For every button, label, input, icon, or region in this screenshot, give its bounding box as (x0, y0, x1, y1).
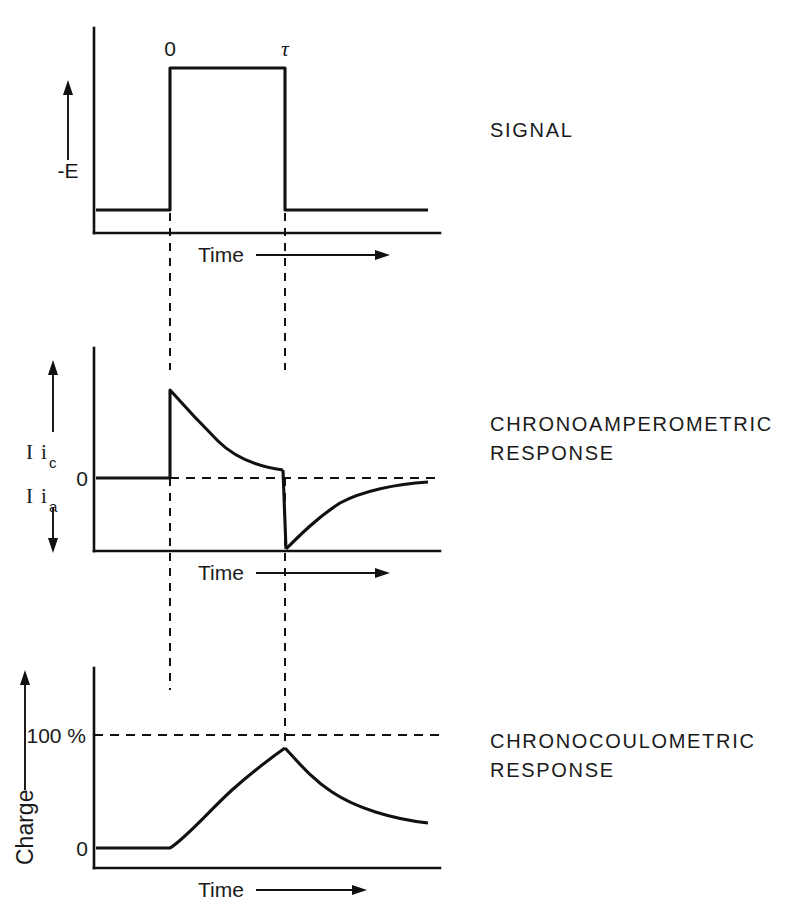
arrow-up-icon (48, 360, 58, 375)
signal-time-arrow (256, 250, 390, 260)
chronocoulometric-panel-caption-line1: CHRONOCOULOMETRIC (490, 730, 756, 752)
cathodic-label-prefix: I (26, 440, 33, 464)
arrow-right-icon (352, 885, 367, 895)
arrow-right-icon (375, 250, 390, 260)
time-alignment-guides (170, 213, 285, 748)
chronocoulometric-time-arrow (256, 885, 367, 895)
panel-chronocoulometric: Charge 100 % 0 Time CHRONOCOULOMETRIC RE… (12, 668, 756, 901)
chronocoulometric-x-axis-label: Time (198, 878, 244, 901)
signal-panel-caption: SIGNAL (490, 119, 574, 141)
chronoamperometric-panel-caption-line1: CHRONOAMPEROMETRIC (490, 413, 773, 435)
panel-signal: 0 τ -E Time SIGNAL (58, 28, 574, 266)
anodic-current-trace (286, 482, 428, 549)
signal-tick-label-tau: τ (281, 36, 290, 61)
signal-x-axis-label: Time (198, 243, 244, 266)
cathodic-label-symbol: i (41, 440, 47, 464)
arrow-up-icon (63, 80, 73, 95)
cathodic-label-subscript: c (49, 454, 57, 471)
arrow-up-icon (20, 670, 30, 685)
chronocoulometric-zero-label: 0 (76, 837, 88, 860)
chronoamperometric-x-axis-label: Time (198, 561, 244, 584)
chronoamperometry-figure: 0 τ -E Time SIGNAL (0, 0, 787, 913)
chronocoulometric-y-axis-label: Charge (12, 790, 38, 865)
charge-rise-trace (96, 748, 285, 848)
signal-waveform-trace (96, 68, 428, 210)
anodic-label-symbol: i (41, 484, 47, 508)
charge-decay-trace (285, 748, 428, 823)
anodic-label-prefix: I (26, 484, 33, 508)
chronoamperometric-zero-label: 0 (76, 467, 88, 490)
signal-tick-label-t0: 0 (164, 37, 176, 60)
figure-root: 0 τ -E Time SIGNAL (0, 0, 787, 913)
arrow-down-icon (48, 538, 58, 553)
chronoamperometric-label-anodic: I i a (26, 484, 58, 515)
signal-y-axis-label: -E (58, 159, 79, 182)
chronoamperometric-label-cathodic: I i c (26, 440, 57, 471)
signal-y-axis-arrow (63, 80, 73, 160)
chronoamperometric-panel-caption-line2: RESPONSE (490, 442, 615, 464)
panel-chronoamperometric: I i c I i a 0 Time CHRONOAMPEROMETRIC RE… (26, 348, 773, 584)
chronoamperometric-time-arrow (256, 568, 390, 578)
cathodic-current-trace (96, 390, 283, 478)
hundred-percent-label: 100 % (26, 724, 86, 747)
anodic-label-subscript: a (49, 498, 58, 515)
arrow-right-icon (375, 568, 390, 578)
chronocoulometric-panel-caption-line2: RESPONSE (490, 759, 615, 781)
